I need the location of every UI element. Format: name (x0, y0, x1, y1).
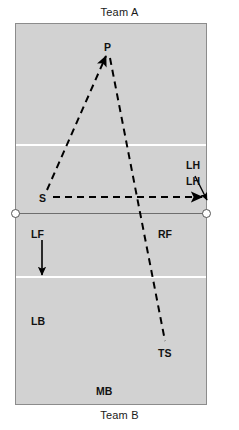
arrow-passer-to-target-spot (110, 58, 165, 341)
position-label-left-back: LB (31, 315, 45, 327)
position-label-passer: P (104, 41, 111, 53)
arrow-layer (0, 0, 239, 430)
position-label-setter: S (39, 192, 46, 204)
position-label-left-hitter-lower: LH (186, 175, 200, 187)
team-b-label: Team B (0, 409, 239, 421)
position-label-right-front: RF (158, 228, 172, 240)
arrow-setter-to-passer (47, 56, 106, 190)
position-label-middle-back: MB (96, 385, 112, 397)
volleyball-court-diagram: Team A P S LH LH LF RF LB MB TS (0, 0, 239, 430)
position-label-left-hitter-upper: LH (186, 159, 200, 171)
position-label-left-front: LF (31, 228, 44, 240)
position-label-target-spot: TS (158, 347, 171, 359)
